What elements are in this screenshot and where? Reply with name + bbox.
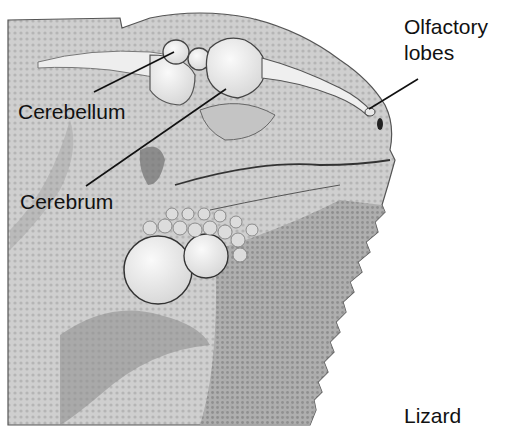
cerebellum-label: Cerebellum	[18, 100, 125, 124]
tympanum-large	[124, 236, 192, 304]
olfactory-label-line1: Olfactory	[404, 14, 488, 40]
lizard-diagram	[0, 0, 514, 444]
caption-lizard: Lizard	[404, 404, 461, 428]
olfactory-lobes-label: Olfactory lobes	[404, 14, 488, 66]
nostril	[377, 118, 383, 130]
cerebellum-lobe	[163, 40, 189, 64]
tympanum-small	[184, 234, 228, 278]
cerebrum-label: Cerebrum	[20, 190, 113, 214]
olfactory-label-line2: lobes	[404, 40, 488, 66]
